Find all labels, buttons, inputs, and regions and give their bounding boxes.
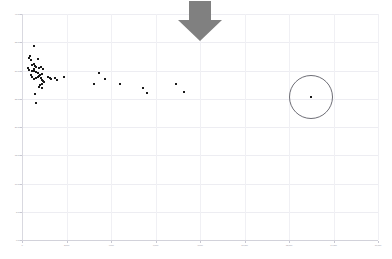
data-point (104, 78, 106, 80)
data-point (50, 78, 52, 80)
data-point (35, 77, 37, 79)
gridline-vertical (200, 14, 201, 240)
data-point (42, 68, 44, 70)
data-point (63, 76, 65, 78)
x-tick-mark (156, 241, 157, 243)
gridline-vertical (67, 14, 68, 240)
x-tick-label: 10,000 (241, 244, 247, 247)
data-point (31, 70, 33, 72)
data-point (41, 87, 43, 89)
x-tick-mark (378, 241, 379, 243)
x-tick-label: 8,000 (197, 244, 202, 247)
x-tick-mark (289, 241, 290, 243)
gridline-vertical (378, 14, 379, 240)
data-point (183, 91, 185, 93)
y-tick-mark (20, 184, 22, 185)
data-point (27, 67, 29, 69)
gridline-vertical (245, 14, 246, 240)
x-tick-label: 2,000 (64, 244, 69, 247)
x-tick-mark (334, 241, 335, 243)
data-point (33, 45, 35, 47)
x-tick-mark (22, 241, 23, 243)
data-point (98, 72, 100, 74)
data-point (93, 83, 95, 85)
down-arrow-icon (177, 0, 223, 42)
y-tick-label: 15.00 (2, 154, 20, 157)
data-point (38, 86, 40, 88)
data-point (56, 79, 58, 81)
data-point (119, 83, 121, 85)
x-tick-mark (245, 241, 246, 243)
gridline-vertical (334, 14, 335, 240)
y-tick-label: 10.00 (2, 182, 20, 185)
x-tick-mark (200, 241, 201, 243)
data-point (37, 76, 39, 78)
x-tick-mark (67, 241, 68, 243)
data-point (30, 74, 32, 76)
x-tick-label: 4,000 (108, 244, 113, 247)
y-axis-line (22, 14, 23, 240)
data-point (33, 78, 35, 80)
gridline-vertical (111, 14, 112, 240)
data-point (37, 58, 39, 60)
y-tick-mark (20, 71, 22, 72)
data-point (146, 92, 148, 94)
data-point (31, 64, 33, 66)
data-point (142, 87, 144, 89)
data-point (35, 102, 37, 104)
x-tick-label: 0 (21, 244, 22, 247)
x-tick-label: 14,000 (330, 244, 336, 247)
data-point (175, 83, 177, 85)
x-tick-mark (111, 241, 112, 243)
y-tick-mark (20, 14, 22, 15)
y-tick-label: 25.00 (2, 97, 20, 100)
data-point (35, 66, 37, 68)
down-arrow-callout (177, 0, 223, 46)
gridline-vertical (156, 14, 157, 240)
x-tick-label: 16,000 (375, 244, 381, 247)
outlier-highlight-circle (289, 75, 333, 119)
gridline-vertical (289, 14, 290, 240)
y-tick-label: 20.00 (2, 126, 20, 129)
data-point (34, 93, 36, 95)
x-tick-label: 12,000 (286, 244, 292, 247)
y-tick-label: 5.00 (2, 210, 20, 213)
data-point (39, 84, 41, 86)
y-tick-label: 30.00 (2, 69, 20, 72)
x-tick-label: 6,000 (153, 244, 158, 247)
data-point (30, 59, 32, 61)
y-tick-mark (20, 212, 22, 213)
data-point (43, 81, 45, 83)
scatter-chart: 0.005.0010.0015.0020.0025.0030.0035.0040… (0, 0, 392, 259)
y-tick-mark (20, 155, 22, 156)
y-tick-label: 40.00 (2, 13, 20, 16)
y-tick-mark (20, 42, 22, 43)
y-tick-label: 35.00 (2, 41, 20, 44)
y-tick-mark (20, 127, 22, 128)
y-tick-label: 0.00 (2, 239, 20, 242)
y-tick-mark (20, 99, 22, 100)
